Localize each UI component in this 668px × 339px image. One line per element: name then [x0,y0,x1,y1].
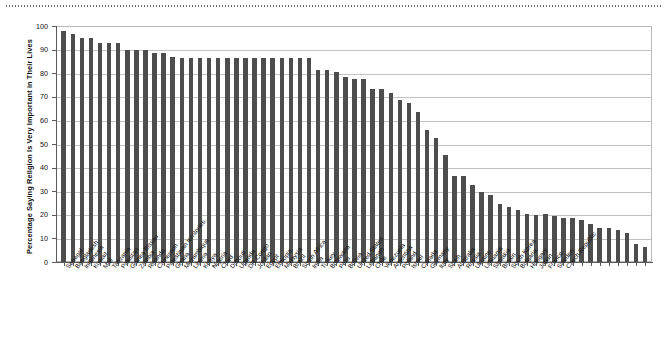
x-axis-tick [600,263,601,266]
y-axis-tick-label: 30 [22,188,48,195]
bar[interactable] [607,228,612,262]
bar[interactable] [389,93,394,262]
bar[interactable] [261,58,266,262]
y-axis-tick [52,97,56,98]
y-axis-tick [52,168,56,169]
bar[interactable] [170,57,175,262]
y-axis-tick-label: 60 [22,117,48,124]
bar[interactable] [80,38,85,262]
y-axis-tick-label: 40 [22,164,48,171]
bar[interactable] [180,58,185,262]
bar[interactable] [161,53,166,262]
bar[interactable] [116,43,121,262]
x-axis-tick [609,263,610,266]
x-axis-tick [645,263,646,266]
bar[interactable] [452,176,457,262]
bar[interactable] [71,34,76,262]
bar[interactable] [325,70,330,262]
bar[interactable] [225,58,230,262]
y-axis-tick-label: 10 [22,235,48,242]
bar[interactable] [361,79,366,262]
y-axis-tick-label: 100 [22,23,48,30]
x-axis-tick [582,263,583,266]
bar[interactable] [234,58,239,262]
bar[interactable] [461,176,466,262]
bar-series [56,26,652,262]
y-axis-tick [52,50,56,51]
y-axis-tick-label: 80 [22,70,48,77]
x-axis-tick [618,263,619,266]
bar[interactable] [352,79,357,262]
bar[interactable] [434,138,439,262]
y-axis-tick [52,191,56,192]
bar[interactable] [643,247,648,262]
y-axis-tick [52,144,56,145]
decorative-dotted-rule [6,5,662,7]
bar[interactable] [280,58,285,262]
x-axis-tick [591,263,592,266]
bar[interactable] [298,58,303,262]
y-axis-tick [52,26,56,27]
y-axis-tick [52,120,56,121]
y-axis-tick [52,215,56,216]
bar[interactable] [207,58,212,262]
y-axis-tick [52,73,56,74]
bar[interactable] [634,244,639,262]
y-axis-tick-label: 20 [22,211,48,218]
bar[interactable] [334,72,339,262]
bar[interactable] [398,100,403,262]
bar[interactable] [216,58,221,262]
x-axis-tick [573,263,574,266]
bar[interactable] [343,77,348,262]
bar[interactable] [107,43,112,262]
y-axis-tick-label: 70 [22,93,48,100]
bar[interactable] [616,230,621,262]
bar[interactable] [125,50,130,262]
bar[interactable] [416,112,421,262]
bar[interactable] [243,58,248,262]
bar[interactable] [307,58,312,262]
bar[interactable] [89,38,94,262]
bar-chart: Percentage Saying Religion Is Very Impor… [0,14,668,339]
x-axis-tick [627,263,628,266]
bar[interactable] [143,50,148,262]
bar[interactable] [134,50,139,262]
y-axis-tick [52,238,56,239]
chart-page: Percentage Saying Religion Is Very Impor… [0,0,668,339]
bar[interactable] [316,70,321,262]
bar[interactable] [625,233,630,263]
bar[interactable] [407,103,412,262]
y-axis-tick-label: 50 [22,141,48,148]
x-axis-tick [636,263,637,266]
bar[interactable] [370,89,375,262]
bar[interactable] [597,228,602,262]
bar[interactable] [252,58,257,262]
y-axis-tick-label: 0 [22,259,48,266]
y-axis-tick [52,262,56,263]
y-axis-tick-label: 90 [22,46,48,53]
bar[interactable] [152,53,157,262]
bar[interactable] [61,31,66,262]
bar[interactable] [425,130,430,262]
bar[interactable] [270,58,275,262]
bar[interactable] [289,58,294,262]
bar[interactable] [98,43,103,262]
